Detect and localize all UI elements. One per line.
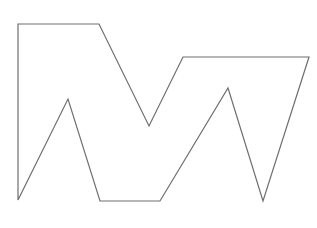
- zigzag-polygon: [18, 24, 309, 201]
- diagram-canvas: [0, 0, 317, 228]
- polygon-drawing: [0, 0, 317, 228]
